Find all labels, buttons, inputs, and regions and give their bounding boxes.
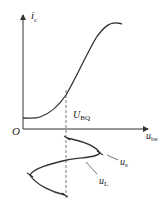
- load-signal-label: uL: [99, 175, 108, 188]
- origin-label: O: [12, 125, 20, 137]
- input-sine-wave: [30, 138, 100, 195]
- source-signal-label: us: [120, 156, 128, 169]
- x-axis-label: ube: [146, 130, 158, 143]
- load-signal-leader: [86, 162, 97, 174]
- source-signal-leader: [107, 155, 118, 160]
- quiescent-voltage-label: UBQ: [73, 109, 90, 122]
- y-axis-label: ic: [31, 9, 37, 24]
- transfer-characteristic-diagram: ic O ube UBQ us uL: [0, 0, 166, 208]
- characteristic-curve: [23, 23, 122, 118]
